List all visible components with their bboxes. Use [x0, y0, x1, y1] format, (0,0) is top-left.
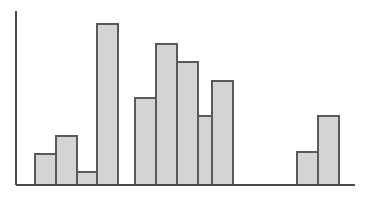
bar-1 — [35, 154, 56, 185]
bar-chart — [0, 0, 368, 200]
bar-7 — [177, 62, 198, 185]
bars-layer — [35, 24, 339, 185]
bar-11 — [318, 116, 339, 185]
bar-9 — [212, 81, 233, 185]
chart-plot-area — [0, 0, 368, 200]
bar-4 — [97, 24, 118, 185]
bar-2 — [56, 136, 77, 185]
bar-3 — [77, 172, 97, 185]
bar-10 — [297, 152, 318, 185]
bar-5 — [135, 98, 156, 185]
bar-6 — [156, 44, 177, 185]
